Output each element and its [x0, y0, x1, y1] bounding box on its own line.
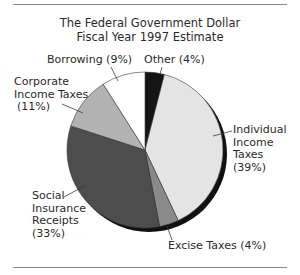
- label-excise: Excise Taxes (4%): [168, 240, 266, 253]
- leader-other: [160, 67, 162, 74]
- label-social-line3: Receipts: [32, 215, 86, 228]
- label-other: Other (4%): [144, 54, 205, 67]
- label-borrowing: Borrowing (9%): [47, 54, 132, 67]
- label-corporate: Corporate Income Taxes (11%): [14, 76, 88, 114]
- pie-slices: [67, 72, 223, 228]
- label-individual-line1: Individual: [233, 124, 287, 137]
- label-social-line4: (33%): [32, 228, 86, 241]
- label-corporate-line3: (11%): [14, 101, 88, 114]
- label-social: Social Insurance Receipts (33%): [32, 190, 86, 240]
- label-individual-line4: (39%): [233, 162, 287, 175]
- label-corporate-line1: Corporate: [14, 76, 88, 89]
- label-individual: Individual Income Taxes (39%): [233, 124, 287, 174]
- label-individual-line3: Taxes: [233, 149, 287, 162]
- bottom-rule: [13, 267, 287, 268]
- label-social-line1: Social: [32, 190, 86, 203]
